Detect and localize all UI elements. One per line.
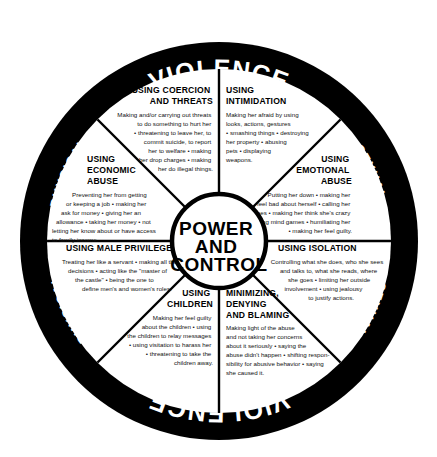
power-and-control-wheel: PHYSICAL VIOLENCE SEXUAL SEXUAL VIOLENCE… [0, 0, 437, 457]
wheel-svg: PHYSICAL VIOLENCE SEXUAL SEXUAL VIOLENCE… [0, 0, 437, 457]
segment-title: USING ISOLATION [278, 243, 357, 253]
segment-title: USING MALE PRIVILEGE [66, 243, 172, 253]
